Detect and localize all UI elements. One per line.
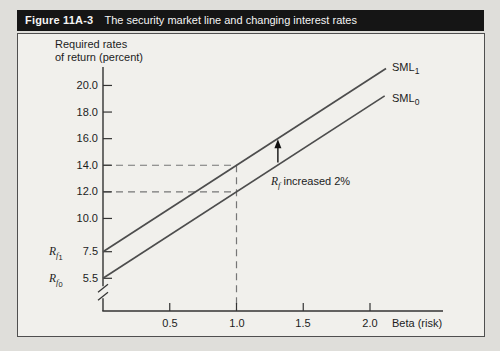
figure-caption: The security market line and changing in… [104,14,357,26]
y-tick-label-10: 10.0 [56,212,98,225]
y-axis-title: Required rates of return (percent) [55,38,143,64]
figure-number: Figure 11A-3 [25,14,93,26]
rf1-label: Rf1 [49,245,75,258]
figure-page: Figure 11A-3The security market line and… [0,0,500,351]
figure-header: Figure 11A-3The security market line and… [17,10,484,31]
y-tick-label-14: 14.0 [56,159,98,172]
y-tick-label-18: 18.0 [56,106,98,119]
sml0-line-label: SML0 [392,92,419,105]
x-tick-label-2-0: 2.0 [353,317,387,330]
x-tick-label-1-5: 1.5 [286,317,320,330]
y-tick-label-20: 20.0 [56,79,98,92]
x-axis-title: Beta (risk) [392,317,442,330]
x-tick-label-1-0: 1.0 [220,317,254,330]
y-axis-title-line2: of return (percent) [55,51,143,64]
y-tick-label-16: 16.0 [56,132,98,145]
rf0-label: Rf0 [49,272,75,285]
y-axis-title-line1: Required rates [55,38,143,51]
y-tick-label-12: 12.0 [56,185,98,198]
x-tick-label-0-5: 0.5 [153,317,187,330]
rf-increase-annotation: Rf increased 2% [271,175,350,188]
sml1-line-label: SML1 [392,61,419,74]
